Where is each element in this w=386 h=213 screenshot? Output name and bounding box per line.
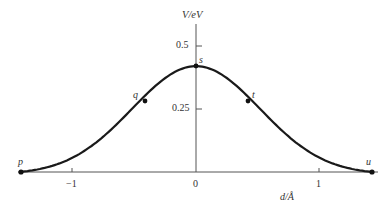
point-label-p: p: [18, 157, 23, 167]
point-label-q: q: [133, 90, 138, 100]
x-tick-label-1: 1: [316, 179, 321, 189]
point-u: [369, 169, 374, 174]
point-label-s: s: [199, 55, 203, 65]
point-p: [18, 169, 23, 174]
point-s: [194, 64, 199, 69]
y-tick-label-05: 0.5: [176, 40, 189, 50]
y-tick-label-025: 0.25: [172, 103, 190, 113]
x-tick-label-m1: −1: [66, 179, 77, 189]
point-label-u: u: [366, 157, 371, 167]
point-t: [246, 99, 251, 104]
point-label-t: t: [252, 90, 255, 100]
y-axis-label: V/eV: [182, 10, 202, 21]
x-axis-label: d/Å: [280, 192, 294, 202]
point-q: [143, 99, 148, 104]
x-tick-label-0: 0: [193, 179, 198, 189]
